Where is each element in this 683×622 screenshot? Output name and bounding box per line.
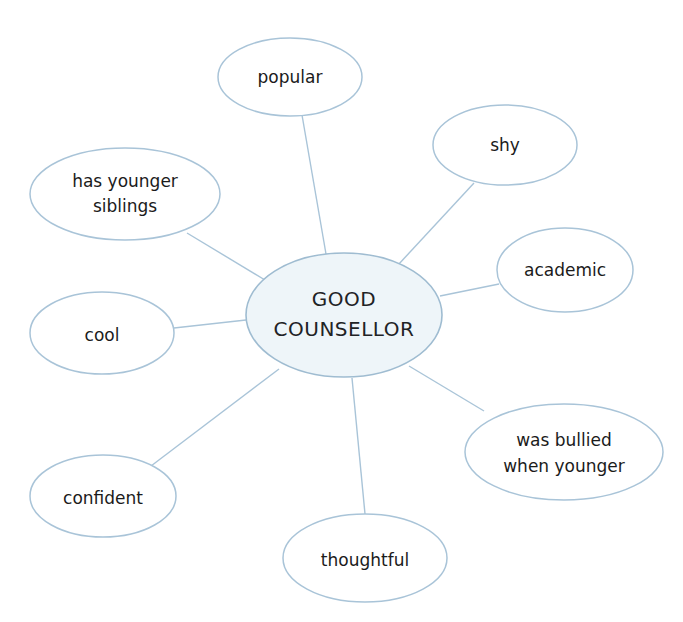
svg-text:siblings: siblings <box>93 196 157 216</box>
svg-text:was bullied: was bullied <box>516 430 612 450</box>
node-confident-label: confident <box>63 488 143 508</box>
node-was-bullied-when-younger: was bullied when younger <box>465 404 663 500</box>
connector-thoughtful <box>352 378 365 514</box>
node-was-bullied-when-younger-ellipse <box>465 404 663 500</box>
node-shy: shy <box>433 105 577 185</box>
svg-text:when younger: when younger <box>503 456 625 476</box>
connector-popular <box>302 115 326 254</box>
node-academic: academic <box>497 228 633 312</box>
svg-text:cool: cool <box>85 325 120 345</box>
mind-map-diagram: popular shy has younger siblings academi… <box>0 0 683 622</box>
connector-confident <box>151 369 279 466</box>
svg-text:COUNSELLOR: COUNSELLOR <box>274 317 415 341</box>
connector-academic <box>440 284 499 296</box>
svg-text:shy: shy <box>490 135 520 155</box>
svg-text:GOOD: GOOD <box>312 287 376 311</box>
node-was-bullied-line2: when younger <box>503 456 625 476</box>
center-node-line1: GOOD <box>312 287 376 311</box>
connector-cool <box>174 320 246 328</box>
connector-was-bullied-when-younger <box>409 366 484 411</box>
node-confident: confident <box>30 455 176 537</box>
svg-text:confident: confident <box>63 488 143 508</box>
node-academic-label: academic <box>524 260 606 280</box>
center-node-ellipse <box>246 253 442 377</box>
svg-text:has younger: has younger <box>72 171 178 191</box>
node-thoughtful-label: thoughtful <box>321 550 409 570</box>
node-has-younger-siblings-line1: has younger <box>72 171 178 191</box>
node-thoughtful: thoughtful <box>283 514 447 602</box>
node-shy-label: shy <box>490 135 520 155</box>
node-was-bullied-line1: was bullied <box>516 430 612 450</box>
node-has-younger-siblings-line2: siblings <box>93 196 157 216</box>
node-cool: cool <box>30 292 174 374</box>
node-popular: popular <box>218 38 362 116</box>
node-has-younger-siblings-ellipse <box>30 148 220 240</box>
node-cool-label: cool <box>85 325 120 345</box>
connector-has-younger-siblings <box>187 233 265 280</box>
svg-text:academic: academic <box>524 260 606 280</box>
connector-shy <box>398 183 474 265</box>
center-node-line2: COUNSELLOR <box>274 317 415 341</box>
node-popular-label: popular <box>258 67 323 87</box>
center-node-good-counsellor: GOOD COUNSELLOR <box>246 253 442 377</box>
node-has-younger-siblings: has younger siblings <box>30 148 220 240</box>
svg-text:popular: popular <box>258 67 323 87</box>
svg-text:thoughtful: thoughtful <box>321 550 409 570</box>
